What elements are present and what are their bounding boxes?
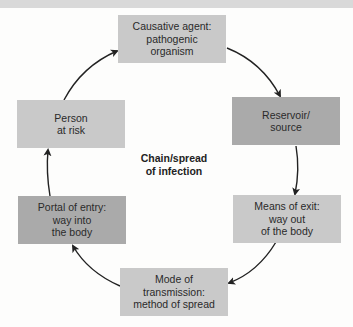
node-portal-of-entry: Portal of entry: way into the body: [18, 196, 126, 244]
node-line: at risk: [54, 124, 87, 137]
node-mode-of-transmission: Mode of transmission: method of spread: [120, 268, 228, 316]
arrow-reservoir-to-exit: [295, 146, 298, 194]
node-line: source: [262, 121, 310, 134]
node-line: Causative agent:: [133, 20, 212, 33]
node-line: organism: [133, 45, 212, 58]
node-line: pathogenic: [133, 33, 212, 46]
center-title-line: of infection: [122, 165, 226, 178]
arrow-mode-to-portal: [73, 246, 120, 286]
node-line: way into: [38, 214, 106, 227]
node-person-at-risk: Person at risk: [17, 100, 125, 148]
node-line: of the body: [254, 225, 319, 238]
node-line: Mode of: [133, 273, 215, 286]
diagram-center-title: Chain/spread of infection: [122, 152, 226, 178]
arrow-person-to-causative: [64, 51, 117, 100]
node-causative-agent: Causative agent: pathogenic organism: [118, 15, 226, 63]
node-line: the body: [38, 226, 106, 239]
node-line: Means of exit:: [254, 200, 319, 213]
center-title-line: Chain/spread: [122, 152, 226, 165]
arrow-portal-to-person: [47, 150, 50, 196]
node-line: way out: [254, 213, 319, 226]
arrow-exit-to-mode: [229, 242, 276, 283]
node-line: Portal of entry:: [38, 201, 106, 214]
node-line: Reservoir/: [262, 109, 310, 122]
node-means-of-exit: Means of exit: way out of the body: [233, 195, 341, 243]
node-line: Person: [54, 112, 87, 125]
node-line: transmission:: [133, 286, 215, 299]
node-line: method of spread: [133, 298, 215, 311]
arrow-causative-to-reservoir: [227, 48, 280, 96]
node-reservoir: Reservoir/ source: [232, 97, 340, 145]
